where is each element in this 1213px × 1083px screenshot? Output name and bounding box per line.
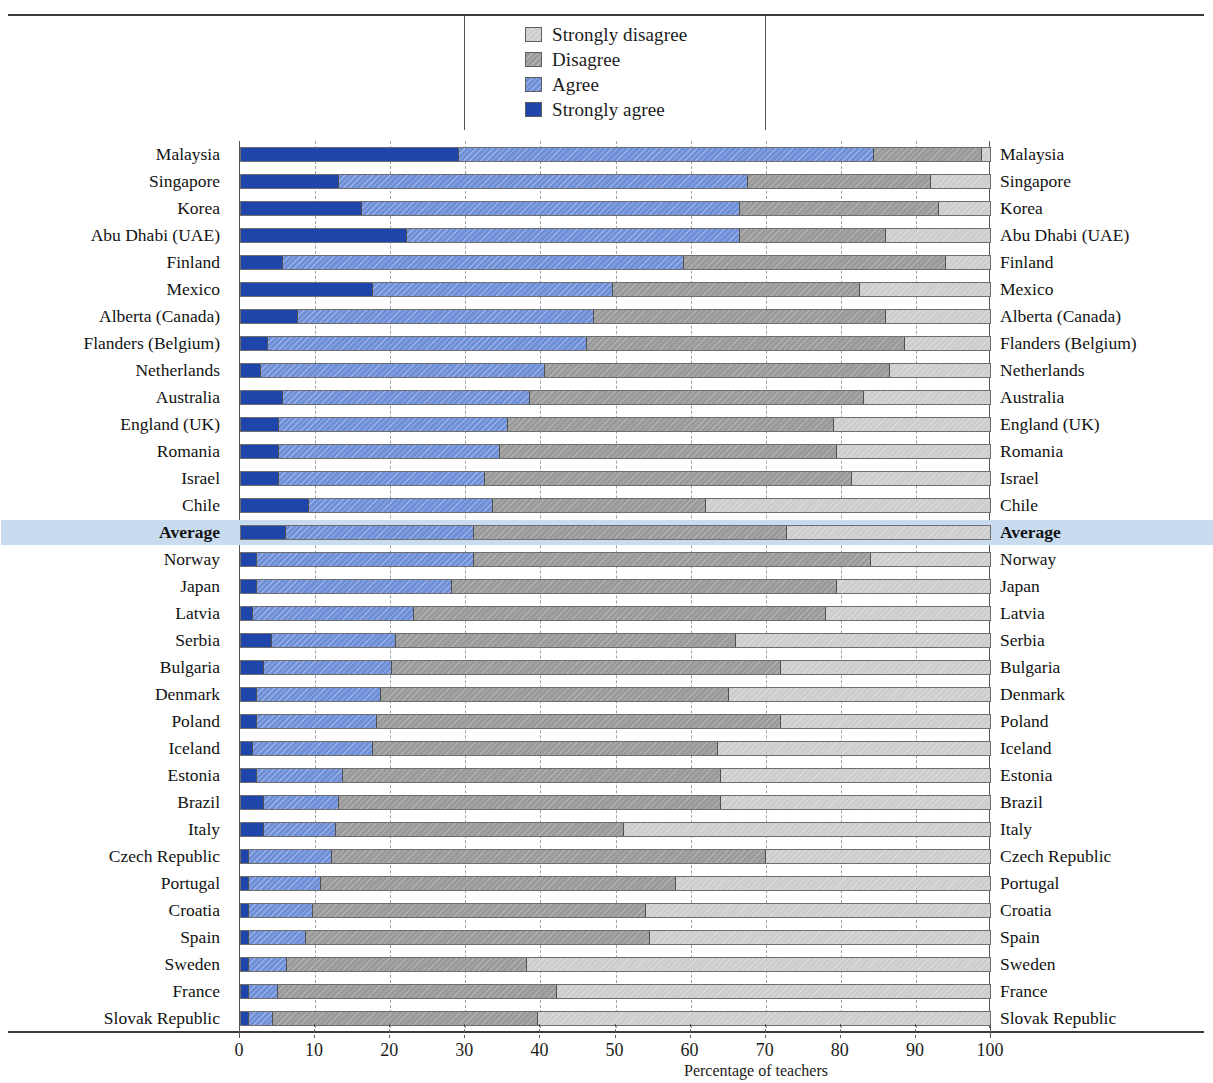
category-label-row: CroatiaCroatia	[0, 897, 1212, 924]
category-label-left: Romania	[0, 438, 228, 465]
x-tick-90	[915, 1024, 916, 1038]
category-label-row: SerbiaSerbia	[0, 627, 1212, 654]
category-label-left: France	[0, 978, 228, 1005]
x-tick-50	[615, 1024, 616, 1038]
legend-swatch-strongly_agree	[525, 102, 542, 117]
category-label-left: Denmark	[0, 681, 228, 708]
category-label-row: DenmarkDenmark	[0, 681, 1212, 708]
legend-label-strongly_disagree: Strongly disagree	[552, 24, 687, 46]
legend-label-strongly_agree: Strongly agree	[552, 99, 665, 121]
category-label-right: Latvia	[1000, 600, 1212, 627]
category-label-left: Alberta (Canada)	[0, 303, 228, 330]
category-label-right: Flanders (Belgium)	[1000, 330, 1212, 357]
category-label-right: Serbia	[1000, 627, 1212, 654]
category-label-row: KoreaKorea	[0, 195, 1212, 222]
category-label-left: Serbia	[0, 627, 228, 654]
legend-item-disagree: Disagree	[525, 47, 765, 72]
x-tick-label-30: 30	[434, 1040, 494, 1061]
category-label-left: Singapore	[0, 168, 228, 195]
category-label-row: IcelandIceland	[0, 735, 1212, 762]
category-label-left: Czech Republic	[0, 843, 228, 870]
category-label-right: Average	[1000, 519, 1212, 546]
category-label-left: England (UK)	[0, 411, 228, 438]
category-label-right: Abu Dhabi (UAE)	[1000, 222, 1212, 249]
category-label-left: Australia	[0, 384, 228, 411]
category-label-right: Malaysia	[1000, 141, 1212, 168]
category-label-left: Korea	[0, 195, 228, 222]
category-label-left: Japan	[0, 573, 228, 600]
category-label-left: Israel	[0, 465, 228, 492]
legend-swatch-agree	[525, 77, 542, 92]
category-label-left: Bulgaria	[0, 654, 228, 681]
x-tick-20	[389, 1024, 390, 1038]
category-label-left: Flanders (Belgium)	[0, 330, 228, 357]
x-tick-label-100: 100	[960, 1040, 1020, 1061]
category-label-row: Abu Dhabi (UAE)Abu Dhabi (UAE)	[0, 222, 1212, 249]
category-label-row: PortugalPortugal	[0, 870, 1212, 897]
category-label-right: Iceland	[1000, 735, 1212, 762]
category-label-left: Sweden	[0, 951, 228, 978]
category-label-row: Flanders (Belgium)Flanders (Belgium)	[0, 330, 1212, 357]
category-label-right: Czech Republic	[1000, 843, 1212, 870]
category-label-left: Netherlands	[0, 357, 228, 384]
category-label-right: Poland	[1000, 708, 1212, 735]
category-label-left: Latvia	[0, 600, 228, 627]
category-label-row: PolandPoland	[0, 708, 1212, 735]
x-tick-label-50: 50	[585, 1040, 645, 1061]
category-label-left: Croatia	[0, 897, 228, 924]
category-label-row: FranceFrance	[0, 978, 1212, 1005]
category-label-left: Slovak Republic	[0, 1005, 228, 1032]
category-label-right: Estonia	[1000, 762, 1212, 789]
x-tick-70	[765, 1024, 766, 1038]
category-label-row: ChileChile	[0, 492, 1212, 519]
x-tick-label-0: 0	[209, 1040, 269, 1061]
category-label-row: BrazilBrazil	[0, 789, 1212, 816]
category-label-row: AverageAverage	[0, 519, 1212, 546]
category-label-right: Finland	[1000, 249, 1212, 276]
legend-item-strongly_agree: Strongly agree	[525, 97, 765, 122]
category-label-row: ItalyItaly	[0, 816, 1212, 843]
category-label-right: Croatia	[1000, 897, 1212, 924]
category-label-row: SingaporeSingapore	[0, 168, 1212, 195]
x-tick-label-70: 70	[735, 1040, 795, 1061]
category-label-right: Romania	[1000, 438, 1212, 465]
category-label-right: Japan	[1000, 573, 1212, 600]
legend-label-agree: Agree	[552, 74, 599, 96]
category-label-row: JapanJapan	[0, 573, 1212, 600]
category-label-row: NorwayNorway	[0, 546, 1212, 573]
x-tick-0	[239, 1024, 240, 1038]
category-label-row: FinlandFinland	[0, 249, 1212, 276]
x-axis-title: Percentage of teachers	[0, 1062, 1212, 1080]
category-label-right: Slovak Republic	[1000, 1005, 1212, 1032]
x-tick-label-80: 80	[810, 1040, 870, 1061]
category-label-left: Norway	[0, 546, 228, 573]
category-label-row: AustraliaAustralia	[0, 384, 1212, 411]
category-label-right: Mexico	[1000, 276, 1212, 303]
category-label-left: Abu Dhabi (UAE)	[0, 222, 228, 249]
category-label-row: RomaniaRomania	[0, 438, 1212, 465]
category-label-row: Czech RepublicCzech Republic	[0, 843, 1212, 870]
category-label-left: Spain	[0, 924, 228, 951]
legend-swatch-disagree	[525, 52, 542, 67]
x-tick-30	[464, 1024, 465, 1038]
category-label-right: Italy	[1000, 816, 1212, 843]
clipped-figure-title	[0, 0, 1212, 7]
category-label-right: Bulgaria	[1000, 654, 1212, 681]
category-label-row: IsraelIsrael	[0, 465, 1212, 492]
category-label-left: Italy	[0, 816, 228, 843]
category-label-row: SwedenSweden	[0, 951, 1212, 978]
category-label-row: Slovak RepublicSlovak Republic	[0, 1005, 1212, 1032]
x-tick-10	[314, 1024, 315, 1038]
legend-swatch-strongly_disagree	[525, 27, 542, 42]
x-tick-label-60: 60	[660, 1040, 720, 1061]
category-label-left: Malaysia	[0, 141, 228, 168]
category-label-row: MalaysiaMalaysia	[0, 141, 1212, 168]
category-label-right: Korea	[1000, 195, 1212, 222]
category-label-right: Australia	[1000, 384, 1212, 411]
category-label-right: Israel	[1000, 465, 1212, 492]
x-tick-60	[690, 1024, 691, 1038]
category-label-right: Norway	[1000, 546, 1212, 573]
category-label-right: Chile	[1000, 492, 1212, 519]
category-label-right: Denmark	[1000, 681, 1212, 708]
category-label-right: Sweden	[1000, 951, 1212, 978]
